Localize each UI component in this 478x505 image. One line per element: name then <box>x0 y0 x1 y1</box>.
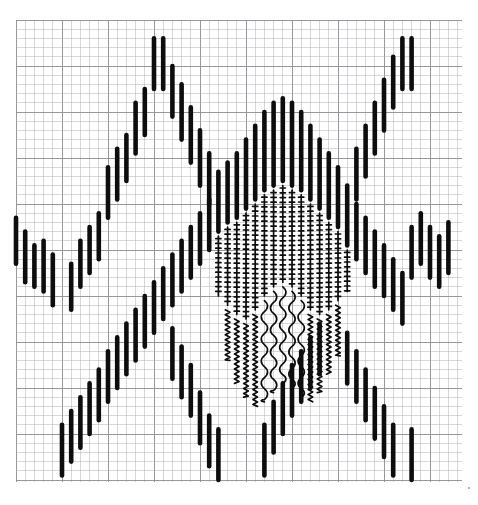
column-plot <box>0 0 478 505</box>
graph-paper-canvas <box>0 0 478 505</box>
corner-dot <box>468 487 470 489</box>
